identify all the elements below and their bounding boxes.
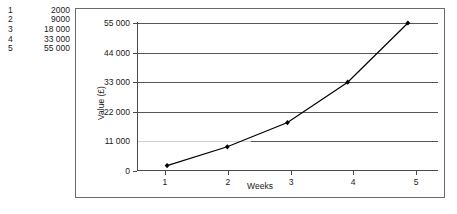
plot-area: 55 000 44 000 33 000 22 000 11 000 0 1 2… (137, 23, 438, 171)
table-row: 3 18 000 (8, 24, 70, 34)
table-cell-value: 55 000 (24, 44, 70, 54)
table-cell-index: 2 (8, 15, 24, 25)
x-tick-label-3: 3 (289, 177, 294, 187)
x-tick-3 (291, 171, 292, 175)
series-line-value (137, 23, 438, 171)
table-row: 4 33 000 (8, 34, 70, 44)
data-point-marker (225, 144, 230, 149)
table-cell-value: 9000 (24, 15, 70, 25)
x-tick-4 (353, 171, 354, 175)
data-point-marker (165, 163, 170, 168)
table-cell-value: 2000 (24, 5, 70, 15)
table-cell-index: 5 (8, 44, 24, 54)
y-tick-label-22000: 22 000 (104, 107, 130, 117)
x-tick-label-5: 5 (414, 177, 419, 187)
data-table-body: 1 2000 2 9000 3 18 000 4 33 000 5 55 000 (8, 5, 70, 53)
table-row: 2 9000 (8, 15, 70, 25)
x-tick-5 (416, 171, 417, 175)
y-tick-label-44000: 44 000 (104, 48, 130, 58)
x-tick-label-2: 2 (226, 177, 231, 187)
y-tick-label-11000: 11 000 (105, 136, 130, 146)
table-cell-index: 3 (8, 24, 24, 34)
table-cell-index: 4 (8, 34, 24, 44)
y-tick-label-0: 0 (125, 166, 130, 176)
table-cell-value: 33 000 (24, 34, 70, 44)
series-polyline (167, 23, 408, 166)
x-axis-title: Weeks (76, 181, 444, 191)
table-row: 1 2000 (8, 5, 70, 15)
x-tick-label-1: 1 (163, 177, 168, 187)
y-tick-0 (133, 171, 137, 172)
series-markers (165, 20, 411, 168)
table-row: 5 55 000 (8, 44, 70, 54)
table-cell-index: 1 (8, 5, 24, 15)
y-tick-label-33000: 33 000 (104, 77, 130, 87)
chart-frame: Value (£) Weeks 55 000 44 000 33 000 22 … (75, 8, 445, 198)
table-cell-value: 18 000 (24, 24, 70, 34)
x-tick-label-4: 4 (351, 177, 356, 187)
x-tick-1 (165, 171, 166, 175)
x-tick-2 (228, 171, 229, 175)
data-table: 1 2000 2 9000 3 18 000 4 33 000 5 55 000 (8, 5, 70, 53)
y-tick-label-55000: 55 000 (104, 18, 130, 28)
